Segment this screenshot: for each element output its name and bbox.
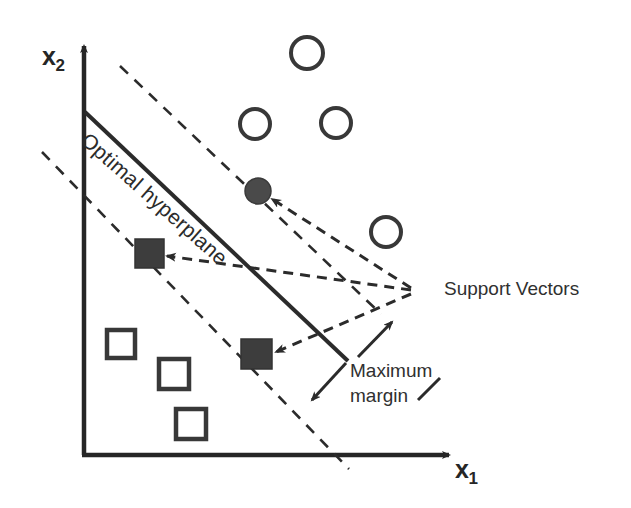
data-point-open-circle — [321, 108, 351, 138]
lower-margin-boundary-line — [42, 152, 349, 469]
data-point-open-square — [107, 330, 135, 358]
data-point-open-circle — [371, 217, 401, 247]
y-axis-label-text: x — [42, 42, 55, 70]
filled-circle-points-group — [245, 178, 271, 204]
maximum-margin-label: Maximum margin — [350, 358, 460, 408]
data-point-open-square — [159, 359, 189, 389]
y-axis-label: x2 — [42, 42, 64, 76]
support-vector-filled-square — [135, 239, 164, 268]
maximum-margin-label-line1: Maximum — [350, 360, 432, 381]
x-axis-label-subscript: 1 — [468, 469, 477, 488]
data-point-open-circle — [240, 109, 270, 139]
optimal-hyperplane-line — [85, 112, 348, 361]
data-point-open-circle — [291, 37, 323, 69]
optimal-hyperplane-group — [85, 112, 348, 361]
x-axis-label: x1 — [455, 455, 477, 489]
svm-diagram: x2 x1 Optimal hyperplane Support Vectors… — [0, 0, 631, 508]
margin-boundaries-group — [42, 66, 381, 469]
support-vectors-label: Support Vectors — [444, 277, 579, 301]
margin-arrow-upper-right — [358, 322, 392, 357]
open-circle-points-group — [240, 37, 401, 247]
data-point-open-square — [176, 409, 206, 439]
x-axis-label-text: x — [455, 455, 468, 483]
maximum-margin-label-line2: margin — [350, 385, 408, 406]
margin-arrow-lower-left — [312, 363, 346, 400]
support-vector-filled-square — [241, 339, 272, 369]
sv-callout-to-upper-filled-square — [167, 256, 411, 290]
support-vector-filled-circle — [245, 178, 271, 204]
y-axis-label-subscript: 2 — [55, 56, 64, 75]
open-square-points-group — [107, 330, 206, 439]
svm-vector-canvas — [0, 0, 631, 508]
